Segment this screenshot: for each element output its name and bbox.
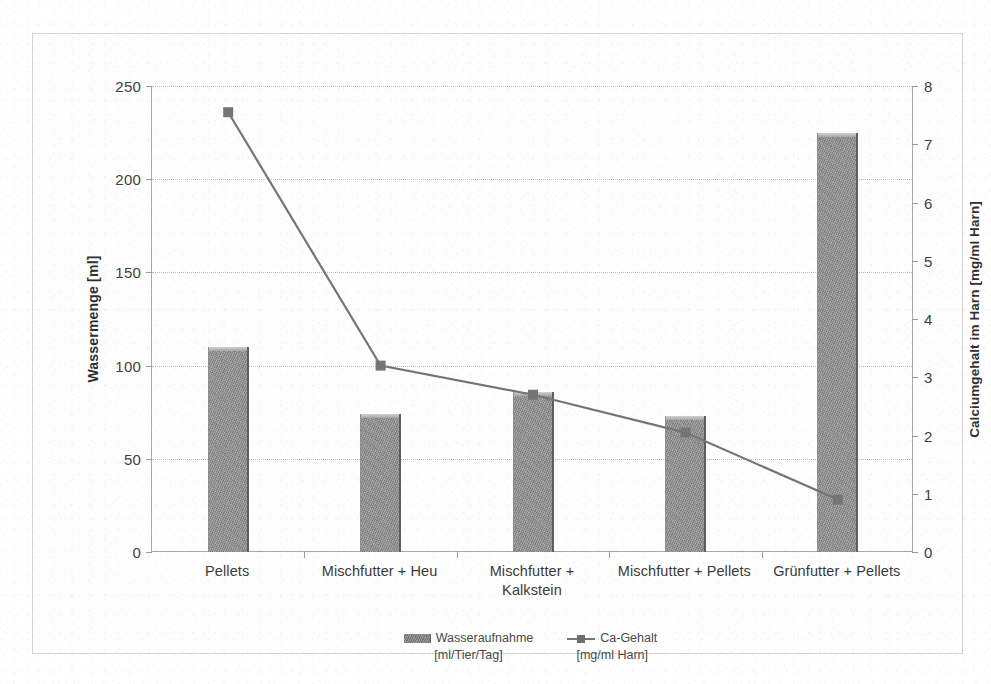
- legend-label: Wasseraufnahme: [436, 630, 534, 647]
- x-axis-label-line: Grünfutter + Pellets: [761, 562, 913, 581]
- left-axis-tick-label: 150: [115, 264, 141, 281]
- left-axis-tick-label: 50: [124, 450, 141, 467]
- left-axis-title-text: Wassermenge [ml]: [85, 255, 101, 382]
- right-axis-tick-label: 3: [924, 369, 932, 386]
- x-axis-label-4: Mischfutter + Pellets: [608, 562, 760, 581]
- x-axis-tick: [304, 551, 305, 558]
- x-axis-label-line: Mischfutter + Pellets: [608, 562, 760, 581]
- line-marker-2: [376, 361, 386, 371]
- right-axis-tick-label: 4: [924, 311, 932, 328]
- x-axis-label-1: Pellets: [151, 562, 303, 581]
- x-axis-label-2: Mischfutter + Heu: [303, 562, 455, 581]
- bar-swatch-icon: [404, 634, 431, 643]
- legend-item-1: Wasseraufnahme[ml/Tier/Tag]: [404, 630, 534, 664]
- x-axis-label-line: Mischfutter + Heu: [303, 562, 455, 581]
- x-axis-label-5: Grünfutter + Pellets: [761, 562, 913, 581]
- right-axis-tick-label: 7: [924, 136, 932, 153]
- x-axis-tick: [457, 551, 458, 558]
- line-marker-1: [223, 107, 233, 117]
- left-axis-tick-label: 0: [132, 544, 141, 561]
- chart-legend: Wasseraufnahme[ml/Tier/Tag]Ca-Gehalt[mg/…: [65, 630, 991, 664]
- legend-row: Wasseraufnahme[ml/Tier/Tag]Ca-Gehalt[mg/…: [404, 630, 657, 664]
- legend-unit: [ml/Tier/Tag]: [434, 647, 502, 664]
- left-axis-tick-label: 250: [115, 78, 141, 95]
- left-axis-tick: [146, 552, 152, 553]
- legend-key: Ca-Gehalt: [567, 630, 657, 647]
- line-marker-4: [680, 428, 690, 438]
- line-marker-5: [833, 495, 843, 505]
- chart-figure-frame: Wassermenge [ml] Calciumgehalt im Harn […: [32, 33, 963, 654]
- x-axis-tick: [762, 551, 763, 558]
- x-axis-label-line: Mischfutter +: [456, 562, 608, 581]
- ca-gehalt-line-series: [152, 86, 914, 552]
- right-axis-tick-label: 0: [924, 544, 932, 561]
- right-axis-tick-label: 2: [924, 427, 932, 444]
- right-axis-tick-label: 8: [924, 78, 932, 95]
- line-marker-3: [528, 390, 538, 400]
- legend-key: Wasseraufnahme: [404, 630, 534, 647]
- right-axis-tick-label: 1: [924, 485, 932, 502]
- x-axis-label-line: Pellets: [151, 562, 303, 581]
- right-axis-tick-label: 6: [924, 194, 932, 211]
- x-axis-label-line: Kalkstein: [456, 581, 608, 600]
- line-marker-icon: [567, 634, 595, 643]
- legend-item-2: Ca-Gehalt[mg/ml Harn]: [567, 630, 657, 664]
- x-axis-tick: [609, 551, 610, 558]
- left-axis-title: Wassermenge [ml]: [82, 86, 104, 552]
- right-axis-title: Calciumgehalt im Harn [mg/ml Harn]: [963, 86, 985, 552]
- x-axis-category-labels: PelletsMischfutter + HeuMischfutter +Kal…: [151, 562, 913, 618]
- x-axis-label-3: Mischfutter +Kalkstein: [456, 562, 608, 600]
- legend-unit: [mg/ml Harn]: [576, 647, 648, 664]
- line-path: [228, 112, 838, 499]
- left-axis-tick-label: 200: [115, 171, 141, 188]
- right-axis-tick: [912, 552, 918, 553]
- legend-label: Ca-Gehalt: [600, 630, 657, 647]
- left-axis-tick-label: 100: [115, 357, 141, 374]
- right-axis-title-text: Calciumgehalt im Harn [mg/ml Harn]: [967, 201, 982, 438]
- right-axis-tick-label: 5: [924, 252, 932, 269]
- plot-area: 050100150200250012345678: [151, 86, 913, 552]
